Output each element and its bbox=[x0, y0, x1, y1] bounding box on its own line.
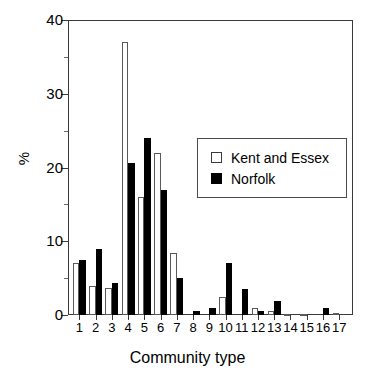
bar-norfolk-12 bbox=[258, 311, 264, 315]
bar-norfolk-9 bbox=[209, 308, 215, 315]
bar-kent-and-essex-13 bbox=[268, 311, 274, 315]
y-tick-mark-minor bbox=[64, 278, 68, 279]
bar-norfolk-8 bbox=[193, 311, 199, 315]
bar-kent-and-essex-4 bbox=[122, 42, 128, 315]
legend-swatch-open-square-icon bbox=[211, 152, 222, 163]
bar-kent-and-essex-15 bbox=[300, 314, 306, 316]
legend-item-norfolk: Norfolk bbox=[211, 168, 346, 189]
y-tick-label: 40 bbox=[46, 12, 63, 27]
legend-swatch-filled-square-icon bbox=[211, 173, 222, 184]
bar-kent-and-essex-7 bbox=[170, 253, 176, 315]
bar-kent-and-essex-12 bbox=[252, 308, 258, 315]
y-tick-label: 20 bbox=[46, 160, 63, 175]
bar-norfolk-3 bbox=[112, 283, 118, 315]
y-tick-label: 30 bbox=[46, 86, 63, 101]
chart-legend: Kent and Essex Norfolk bbox=[197, 138, 347, 198]
bar-norfolk-5 bbox=[144, 138, 150, 315]
bar-kent-and-essex-10 bbox=[219, 297, 225, 315]
bar-norfolk-11 bbox=[242, 289, 248, 315]
bar-kent-and-essex-6 bbox=[154, 153, 160, 315]
bar-kent-and-essex-3 bbox=[105, 288, 111, 315]
y-tick-mark-minor bbox=[64, 57, 68, 58]
bar-norfolk-2 bbox=[96, 249, 102, 315]
bar-norfolk-16 bbox=[323, 308, 329, 315]
bar-norfolk-7 bbox=[177, 278, 183, 315]
bar-chart-figure: % 010203040 1234567891011121314151617 Ke… bbox=[0, 0, 375, 386]
x-axis-title: Community type bbox=[0, 349, 375, 367]
bar-norfolk-13 bbox=[274, 301, 280, 315]
bar-norfolk-10 bbox=[226, 263, 232, 315]
bar-norfolk-6 bbox=[161, 190, 167, 315]
legend-item-kent-and-essex: Kent and Essex bbox=[211, 147, 346, 168]
y-tick-label: 0 bbox=[55, 307, 63, 322]
legend-label-norfolk: Norfolk bbox=[231, 172, 275, 186]
bar-kent-and-essex-17 bbox=[333, 313, 339, 315]
y-tick-mark-minor bbox=[64, 131, 68, 132]
x-tick-label: 17 bbox=[329, 321, 349, 334]
bar-norfolk-4 bbox=[128, 163, 134, 315]
y-tick-label: 10 bbox=[46, 233, 63, 248]
bar-kent-and-essex-14 bbox=[284, 314, 290, 316]
legend-label-kent-and-essex: Kent and Essex bbox=[231, 151, 329, 165]
y-axis-title: % bbox=[15, 144, 32, 174]
y-tick-mark-minor bbox=[64, 204, 68, 205]
bar-norfolk-1 bbox=[79, 260, 85, 315]
bar-kent-and-essex-1 bbox=[73, 263, 79, 315]
